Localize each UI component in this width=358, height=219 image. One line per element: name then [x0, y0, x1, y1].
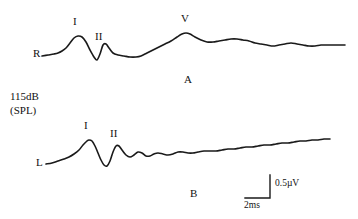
stimulus-level-value: 115dB: [10, 90, 39, 104]
scale-bar: [245, 175, 270, 198]
stimulus-level-label: 115dB (SPL): [10, 90, 39, 118]
waveform-trace-a: [42, 33, 345, 60]
trace-a-peak-i-label: I: [73, 16, 77, 27]
scale-time-label: 2ms: [244, 201, 260, 211]
trace-a-ear-label: R: [33, 48, 40, 59]
trace-b-ear-label: L: [36, 157, 43, 168]
waveform-canvas: [0, 0, 358, 219]
trace-b-peak-ii-label: II: [110, 128, 117, 139]
stimulus-level-units: (SPL): [10, 104, 39, 118]
trace-b-peak-i-label: I: [84, 120, 88, 131]
waveform-trace-b: [46, 139, 330, 166]
trace-a-peak-v-label: V: [181, 13, 189, 24]
scale-bar-lines: [245, 175, 270, 198]
abr-figure: 115dB (SPL) R I II V A L I II B 0.5µV 2m…: [0, 0, 358, 219]
panel-label-a: A: [184, 74, 192, 85]
scale-amplitude-label: 0.5µV: [275, 179, 299, 189]
trace-a-peak-ii-label: II: [95, 31, 102, 42]
panel-label-b: B: [190, 188, 197, 199]
